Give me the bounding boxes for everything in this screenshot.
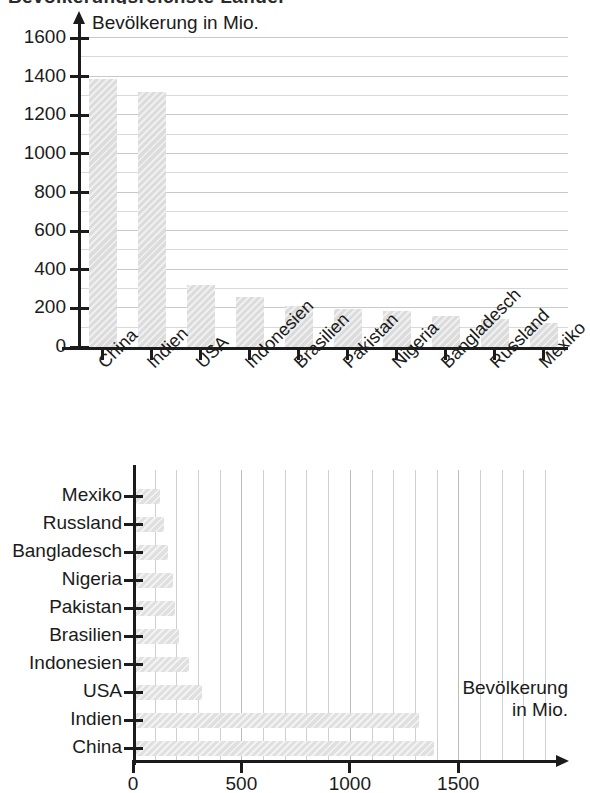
bar bbox=[133, 713, 419, 728]
x-tick bbox=[457, 760, 460, 773]
y-tick-label: Indien bbox=[0, 708, 122, 730]
y-tick bbox=[70, 346, 89, 349]
x-tick-label: 0 bbox=[128, 773, 139, 793]
y-tick bbox=[70, 268, 89, 271]
y-tick bbox=[124, 747, 143, 750]
y-tick bbox=[70, 307, 89, 310]
y-tick-label: Nigeria bbox=[0, 568, 122, 590]
y-tick-label: Pakistan bbox=[0, 596, 122, 618]
bar bbox=[133, 685, 202, 700]
y-tick-label: Brasilien bbox=[0, 624, 122, 646]
y-tick bbox=[124, 719, 143, 722]
y-tick-label: China bbox=[0, 736, 122, 758]
chart2-x-axis-arrow-icon bbox=[556, 755, 569, 767]
chart2-x-axis bbox=[133, 760, 558, 763]
y-tick bbox=[70, 230, 89, 233]
chart1-y-axis-arrow-icon bbox=[73, 11, 85, 24]
bar bbox=[138, 92, 166, 347]
y-tick bbox=[124, 663, 143, 666]
x-tick bbox=[132, 760, 135, 773]
y-tick-label: Bangladesch bbox=[0, 540, 122, 562]
chart2-axis-title-line2: in Mio. bbox=[408, 699, 568, 721]
y-tick bbox=[70, 37, 89, 40]
y-tick bbox=[124, 607, 143, 610]
y-tick-label: 0 bbox=[0, 335, 66, 357]
bar bbox=[89, 79, 117, 347]
y-tick bbox=[70, 152, 89, 155]
y-tick-label: 800 bbox=[0, 181, 66, 203]
y-tick-label: 400 bbox=[0, 258, 66, 280]
y-tick bbox=[124, 495, 143, 498]
y-tick bbox=[70, 191, 89, 194]
y-tick-label: 200 bbox=[0, 296, 66, 318]
chart1-axis-title: Bevölkerung in Mio. bbox=[92, 12, 259, 34]
y-tick bbox=[124, 523, 143, 526]
y-tick bbox=[70, 75, 89, 78]
y-tick-label: Russland bbox=[0, 512, 122, 534]
y-tick bbox=[124, 691, 143, 694]
chart2-axis-title: Bevölkerung in Mio. bbox=[408, 677, 568, 722]
y-tick-label: Indonesien bbox=[0, 652, 122, 674]
y-tick bbox=[124, 579, 143, 582]
y-tick-label: 1600 bbox=[0, 26, 66, 48]
y-tick-label: 1000 bbox=[0, 142, 66, 164]
chart1-y-axis bbox=[78, 22, 81, 349]
x-tick bbox=[240, 760, 243, 773]
chart2-axis-title-line1: Bevölkerung bbox=[408, 677, 568, 699]
y-tick-label: USA bbox=[0, 680, 122, 702]
y-tick-label: Mexiko bbox=[0, 484, 122, 506]
vertical-bar-chart: Bevölkerung in Mio. 02004006008001000120… bbox=[0, 0, 584, 440]
y-tick-label: 1400 bbox=[0, 65, 66, 87]
horizontal-bar-chart: MexikoRusslandBangladeschNigeriaPakistan… bbox=[0, 455, 584, 793]
y-tick bbox=[70, 114, 89, 117]
x-tick-label: 1000 bbox=[329, 773, 371, 793]
x-tick-label: 500 bbox=[226, 773, 258, 793]
y-tick-label: 600 bbox=[0, 219, 66, 241]
x-tick-label: 1500 bbox=[437, 773, 479, 793]
y-tick bbox=[124, 551, 143, 554]
bar bbox=[133, 741, 434, 756]
x-tick bbox=[348, 760, 351, 773]
y-tick-label: 1200 bbox=[0, 103, 66, 125]
y-tick bbox=[124, 635, 143, 638]
